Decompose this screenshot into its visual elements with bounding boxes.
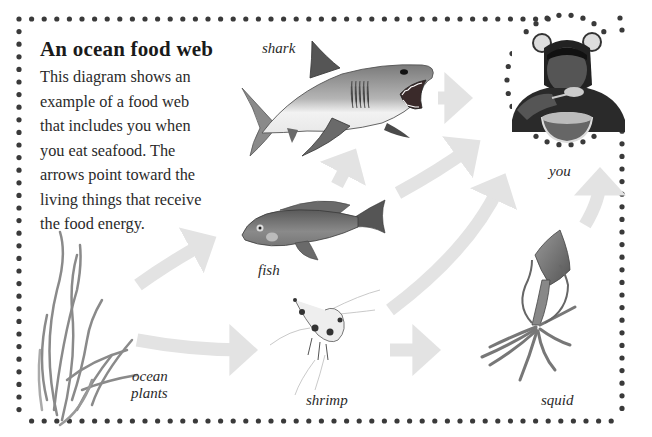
fish-icon (240, 195, 388, 265)
arrow-plants-to-fish (138, 243, 205, 285)
label-squid: squid (541, 392, 574, 409)
label-shrimp: shrimp (306, 392, 348, 409)
description-line: that includes you when (40, 114, 240, 139)
label-shark: shark (262, 40, 295, 57)
arrow-plants-to-shrimp (137, 340, 245, 350)
description-line: living things that receive (40, 188, 240, 213)
label-you: you (549, 163, 571, 180)
description-line: arrows point toward the (40, 163, 240, 188)
description-line: example of a food web (40, 90, 240, 115)
child-eating-photo-icon (492, 10, 637, 160)
shrimp-icon (270, 290, 380, 395)
description-line: you eat seafood. The (40, 139, 240, 164)
arrow-squid-to-you (585, 180, 600, 225)
arrow-fish-to-shark (337, 160, 350, 185)
seagrass-icon (32, 230, 142, 425)
description-line: This diagram shows an (40, 65, 240, 90)
diagram-title: An ocean food web (40, 37, 213, 62)
diagram-description: This diagram shows an example of a food … (40, 65, 240, 237)
label-fish: fish (258, 262, 280, 279)
label-ocean-plants: ocean plants (131, 368, 168, 402)
squid-icon (470, 225, 580, 385)
